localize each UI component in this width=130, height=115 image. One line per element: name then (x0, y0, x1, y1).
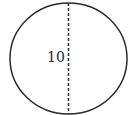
circle-diagram: 10 (0, 0, 130, 115)
diameter-label: 10 (47, 49, 65, 65)
